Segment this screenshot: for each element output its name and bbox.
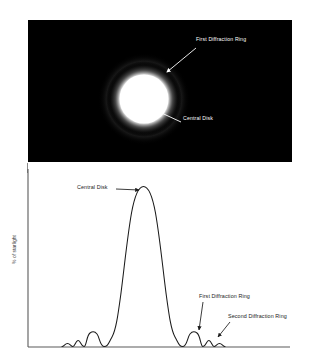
airy-disk-figure: First Diffraction Ring Central Disk % of… [0,0,311,363]
telescope-star-image [28,20,292,162]
central-disk-core [120,75,169,124]
second-diffraction-ring-arrow [218,322,230,337]
photo-label-central-disk: Central Disk [183,116,213,121]
intensity-profile-plot: % of starlight Central Disk First Diffra… [0,165,311,363]
central-disk-arrow [116,189,139,190]
plot-label-central-disk: Central Disk [77,185,108,190]
first-diffraction-ring-arrow [199,302,203,330]
y-axis-label: % of starlight [12,220,17,280]
photo-label-first-diffraction-ring: First Diffraction Ring [196,37,246,42]
plot-label-second-diffraction-ring: Second Diffraction Ring [228,314,287,319]
plot-label-first-diffraction-ring: First Diffraction Ring [199,294,250,299]
airy-profile-curve [62,187,225,347]
